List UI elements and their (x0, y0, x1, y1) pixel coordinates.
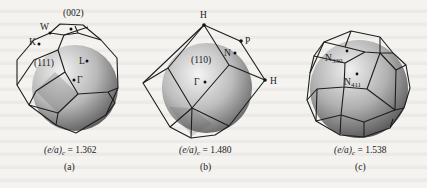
label-subscript: 411 (351, 81, 361, 89)
label-face-111: (111) (34, 59, 54, 69)
point-X (70, 28, 73, 31)
caption-a: (a) (64, 163, 75, 173)
label-point-H-top: H (200, 11, 207, 21)
point-Gamma (73, 79, 76, 82)
caption-c: (c) (355, 163, 366, 173)
label-N: N (344, 77, 351, 87)
label-point-P: P (245, 37, 250, 47)
jones-zone-drawing (280, 0, 427, 188)
formula-value: = 1.538 (357, 145, 386, 155)
formula-value: = 1.362 (67, 145, 96, 155)
fcc-zone-drawing (0, 0, 145, 188)
formula-a: (e/a)c = 1.362 (44, 146, 97, 157)
formula-subscript: c (62, 149, 65, 157)
label-point-K: K (29, 38, 36, 48)
formula-lhs: (e/a) (179, 145, 197, 155)
point-N411 (356, 73, 359, 76)
formula-value: = 1.480 (202, 145, 231, 155)
panel-b-bcc-brillouin-zone: H P N H (110) Γ (e/a)c = 1.480 (b) (140, 0, 285, 188)
label-point-L: L (79, 57, 85, 67)
point-Gamma (204, 81, 207, 84)
edge (75, 26, 78, 33)
point-H-right (263, 78, 267, 82)
point-P (239, 39, 243, 43)
caption-b: (b) (200, 163, 211, 173)
formula-b: (e/a)c = 1.480 (179, 146, 232, 157)
point-N330 (346, 50, 349, 53)
label-point-N330: N330 (325, 54, 342, 65)
formula-lhs: (e/a) (44, 145, 62, 155)
panel-a-fcc-brillouin-zone: (002) W K (111) L Γ (e/a)c = 1.362 (a) (0, 0, 145, 188)
formula-c: (e/a)c = 1.538 (334, 146, 387, 157)
point-N (234, 52, 237, 55)
label-point-N: N (224, 49, 231, 59)
formula-subscript: c (197, 149, 200, 157)
label-face-110: (110) (191, 56, 211, 66)
label-N: N (325, 53, 332, 63)
label-point-Gamma: Γ (77, 76, 83, 86)
label-point-Gamma: Γ (194, 78, 200, 88)
bcc-zone-drawing (140, 0, 285, 188)
label-point-N411: N411 (344, 78, 361, 89)
point-L (86, 60, 89, 63)
point-H-top (202, 23, 206, 27)
formula-subscript: c (352, 149, 355, 157)
formula-lhs: (e/a) (334, 145, 352, 155)
point-K (38, 43, 41, 46)
label-point-H-right: H (270, 77, 277, 87)
label-point-W: W (40, 23, 49, 33)
label-face-002: (002) (63, 9, 84, 19)
panel-c-jones-zone: N330 N411 (e/a)c = 1.538 (c) (280, 0, 427, 188)
label-subscript: 330 (332, 57, 343, 65)
